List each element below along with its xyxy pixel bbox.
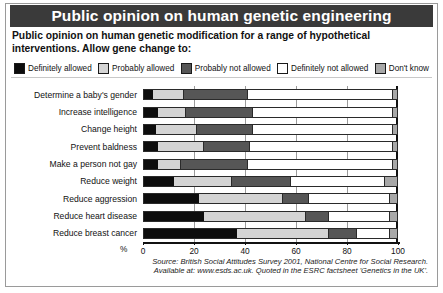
category-label: Increase intelligence	[59, 107, 137, 117]
x-axis-tick-label: 40	[240, 246, 249, 256]
category-label: Change height	[81, 124, 137, 134]
bar-segment	[385, 176, 398, 187]
legend-label: Probably not allowed	[195, 64, 271, 73]
legend-swatch	[375, 63, 386, 74]
x-axis-tick-label: 0	[141, 246, 146, 256]
bar-segment	[153, 89, 184, 100]
bar-segment	[390, 211, 398, 222]
category-label: Reduce weight	[80, 176, 137, 186]
bar-row	[143, 211, 398, 222]
bar-segment	[329, 228, 357, 239]
bar-segment	[393, 141, 398, 152]
bar-segment	[143, 141, 159, 152]
bar-segment	[204, 211, 306, 222]
category-axis-labels: Determine a baby's genderIncrease intell…	[12, 84, 141, 244]
bar-segment	[143, 211, 205, 222]
page-title: Public opinion on human genetic engineer…	[51, 7, 391, 25]
bar-segment	[253, 107, 393, 118]
x-axis-unit-label: %	[120, 244, 127, 254]
legend-divider	[11, 77, 432, 78]
bar-segment	[250, 141, 393, 152]
bar-segment	[357, 228, 390, 239]
legend-item: Don't know	[375, 63, 429, 74]
legend-swatch	[14, 63, 25, 74]
category-label: Reduce breast cancer	[53, 228, 137, 238]
legend-item: Definitely allowed	[14, 63, 92, 74]
x-axis-tick-label: 20	[189, 246, 198, 256]
bar-segment	[199, 193, 283, 204]
bar-segment	[143, 124, 157, 135]
bar-segment	[143, 159, 159, 170]
bar-row	[143, 193, 398, 204]
bar-segment	[143, 228, 238, 239]
bar-segment	[283, 193, 309, 204]
bar-segment	[174, 176, 233, 187]
bar-row	[143, 107, 398, 118]
chart-title-banner: Public opinion on human genetic engineer…	[10, 5, 433, 27]
chart-subtitle: Public opinion on human genetic modifica…	[12, 30, 427, 55]
bar-segment	[156, 124, 197, 135]
x-axis-tick-label: 100	[391, 246, 405, 256]
bar-segment	[158, 107, 186, 118]
bar-segment	[393, 107, 398, 118]
bar-segment	[204, 141, 250, 152]
legend-label: Definitely allowed	[28, 64, 92, 73]
legend-swatch	[181, 63, 192, 74]
bars-and-axis: 020406080100	[143, 86, 398, 242]
bar-segment	[184, 89, 248, 100]
bar-segment	[329, 211, 390, 222]
bar-segment	[248, 159, 393, 170]
legend-item: Definitely not allowed	[277, 63, 368, 74]
bar-segment	[248, 89, 393, 100]
bar-segment	[393, 124, 398, 135]
bar-row	[143, 176, 398, 187]
bar-segment	[143, 193, 200, 204]
category-label: Prevent baldness	[71, 142, 137, 152]
legend-label: Definitely not allowed	[291, 64, 368, 73]
bar-segment	[393, 89, 398, 100]
bar-row	[143, 159, 398, 170]
bar-segment	[143, 176, 175, 187]
legend-label: Probably allowed	[112, 64, 174, 73]
bar-segment	[158, 159, 181, 170]
bar-segment	[232, 176, 291, 187]
bar-segment	[390, 193, 398, 204]
bar-segment	[237, 228, 329, 239]
bar-segment	[253, 124, 393, 135]
bar-segment	[390, 228, 398, 239]
category-label: Reduce aggression	[63, 194, 137, 204]
x-axis-line	[143, 242, 400, 244]
figure: Public opinion on human genetic engineer…	[0, 0, 443, 293]
bar-segment	[393, 159, 398, 170]
legend-swatch	[277, 63, 288, 74]
bar-row	[143, 141, 398, 152]
source-line-1: Source: British Social Attitudes Survey …	[14, 257, 428, 266]
category-label: Determine a baby's gender	[34, 90, 137, 100]
bar-row	[143, 89, 398, 100]
legend-item: Probably not allowed	[181, 63, 271, 74]
legend-item: Probably allowed	[98, 63, 174, 74]
source-note: Source: British Social Attitudes Survey …	[14, 257, 428, 276]
legend-label: Don't know	[389, 64, 429, 73]
plot-area: Determine a baby's genderIncrease intell…	[12, 84, 432, 244]
legend-swatch	[98, 63, 109, 74]
bar-segment	[143, 107, 159, 118]
bar-segment	[291, 176, 385, 187]
bar-segment	[306, 211, 329, 222]
bar-row	[143, 228, 398, 239]
x-axis-tick-label: 80	[342, 246, 351, 256]
chart-legend: Definitely allowedProbably allowedProbab…	[11, 60, 432, 77]
category-label: Make a person not gay	[50, 159, 137, 169]
bar-segment	[186, 107, 252, 118]
x-axis-tick-label: 60	[291, 246, 300, 256]
bar-segment	[158, 141, 204, 152]
bar-segment	[309, 193, 391, 204]
category-label: Reduce heart disease	[53, 211, 137, 221]
source-line-2: Available at: www.esds.ac.uk. Quoted in …	[14, 266, 428, 275]
bar-row	[143, 124, 398, 135]
bar-segment	[181, 159, 247, 170]
bar-segment	[197, 124, 253, 135]
